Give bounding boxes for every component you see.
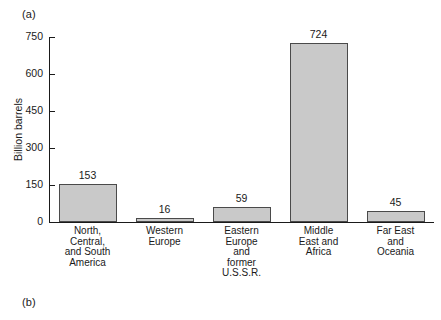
bar-group: 45 (367, 37, 425, 222)
bar-group: 724 (290, 37, 348, 222)
bar-value-label: 59 (236, 192, 248, 204)
y-axis-tick-label: 150 (25, 178, 43, 191)
bar-group: 59 (213, 37, 271, 222)
category-label-line: America (49, 258, 126, 269)
bar-value-label: 16 (159, 203, 171, 215)
category-label-line: and South (49, 247, 126, 258)
panel-label-a: (a) (22, 8, 36, 20)
figure-container: (a) (b) Billion barrels 0150300450600750… (0, 0, 441, 320)
category-label-line: Oceania (357, 247, 434, 258)
category-label-line: Western (126, 226, 203, 237)
y-axis-tick-label: 600 (25, 67, 43, 80)
category-label-line: and (203, 247, 280, 258)
category-label-line: Middle (280, 226, 357, 237)
category-label-line: Africa (280, 247, 357, 258)
y-axis-tick: 300 (50, 148, 55, 149)
bar (290, 43, 348, 222)
y-axis-tick-label: 300 (25, 141, 43, 154)
y-axis-tick: 150 (50, 185, 55, 186)
y-axis-tick: 600 (50, 74, 55, 75)
category-label-line: North, (49, 226, 126, 237)
bar (136, 218, 194, 222)
y-axis-line (49, 37, 50, 222)
plot-area: 0150300450600750 153165972445 (49, 37, 434, 222)
bar-value-label: 153 (79, 169, 97, 181)
x-axis-category-label: WesternEurope (126, 226, 203, 247)
bar-value-label: 724 (310, 28, 328, 40)
bar (213, 207, 271, 222)
bar (59, 184, 117, 222)
x-axis-category-label: EasternEuropeandformerU.S.S.R. (203, 226, 280, 279)
category-label-line: Europe (126, 237, 203, 248)
y-axis-tick-label: 0 (37, 215, 43, 228)
category-label-line: Eastern (203, 226, 280, 237)
x-axis-category-label: MiddleEast andAfrica (280, 226, 357, 258)
bar (367, 211, 425, 222)
y-axis-tick-label: 450 (25, 104, 43, 117)
bar-value-label: 45 (390, 196, 402, 208)
bar-group: 16 (136, 37, 194, 222)
x-axis-line (49, 222, 434, 223)
y-axis-tick-label: 750 (25, 30, 43, 43)
y-axis-tick: 450 (50, 111, 55, 112)
x-axis-category-label: North,Central,and SouthAmerica (49, 226, 126, 268)
bar-group: 153 (59, 37, 117, 222)
category-label-line: Far East (357, 226, 434, 237)
category-label-line: U.S.S.R. (203, 268, 280, 279)
y-axis-tick: 750 (50, 37, 55, 38)
panel-label-b: (b) (22, 296, 36, 308)
y-axis-title: Billion barrels (13, 70, 24, 190)
x-axis-category-label: Far EastandOceania (357, 226, 434, 258)
y-axis-tick: 0 (50, 222, 55, 223)
